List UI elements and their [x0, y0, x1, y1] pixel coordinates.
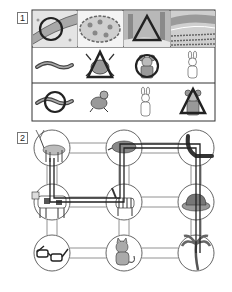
- worksheet: [0, 0, 232, 292]
- scene-pond: [78, 11, 123, 47]
- scene-farm-field: [171, 11, 215, 47]
